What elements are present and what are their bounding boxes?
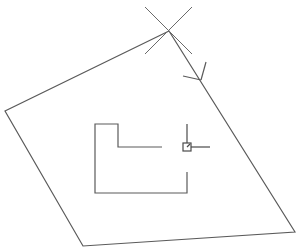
cad-drawing-canvas[interactable] bbox=[0, 0, 296, 251]
drawing-svg bbox=[0, 0, 296, 251]
background bbox=[0, 0, 296, 251]
